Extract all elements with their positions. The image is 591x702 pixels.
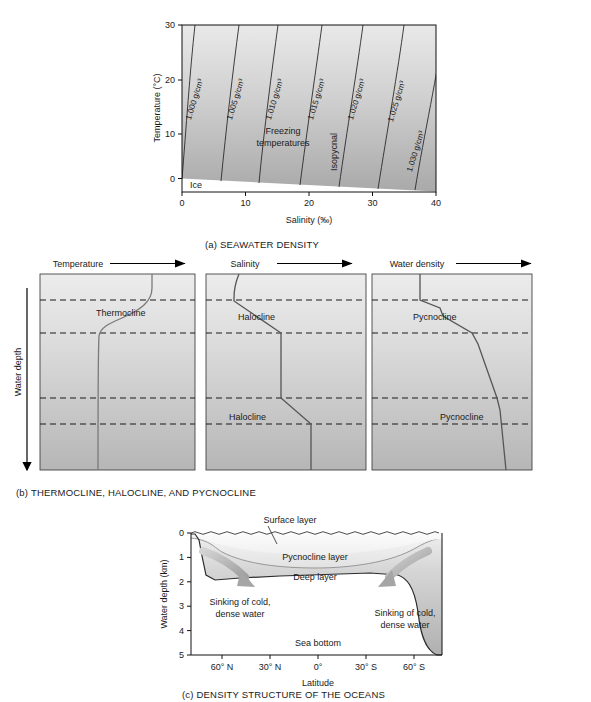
panel-b-label-halocline-upper: Halocline [238,312,275,322]
c-y-tick-0: 0 [179,528,184,538]
ice-label: Ice [190,180,202,190]
panel-b-label-thermocline: Thermocline [96,308,146,318]
panel-c-y-ticks [187,533,191,655]
panel-b-header-temperature: Temperature [53,259,104,269]
x-tick-30: 30 [367,198,377,208]
figure-oceanography: 1.000 g/cm³ 1.005 g/cm³ 1.010 g/cm³ 1.01… [0,0,591,702]
panel-b-plot-density: Water density Pycnocline Pycnocline [372,259,532,470]
y-tick-30: 30 [165,20,175,30]
sinking-right-line2: dense water [380,620,429,630]
freezing-label-line2: temperatures [256,138,310,148]
x-tick-20: 20 [304,198,314,208]
panel-c-x-ticks [222,655,414,659]
panel-c-ocean [191,532,442,655]
c-x-tick-30s: 30° S [355,662,377,672]
y-tick-10: 10 [165,129,175,139]
panel-c-y-ticklabels: 0 1 2 3 4 5 [179,528,184,660]
c-x-tick-60n: 60° N [211,662,234,672]
panel-a-x-ticks [182,192,436,196]
panel-a-y-ticks [178,25,182,179]
panel-a-x-ticklabels: 0 10 20 30 40 [179,198,441,208]
surface-layer-label: Surface layer [263,515,316,525]
panel-b-depth-axis: Water depth [13,288,27,470]
panel-b-depth-label: Water depth [13,348,23,397]
freezing-label-line1: Freezing [265,126,300,136]
y-tick-20: 20 [165,75,175,85]
panel-a-y-ticklabels: 30 20 10 0 [165,20,175,184]
c-x-tick-0: 0° [314,662,323,672]
panel-b-header-density: Water density [390,259,445,269]
c-y-tick-1: 1 [179,552,184,562]
pycnocline-layer-label: Pycnocline layer [282,552,348,562]
c-x-tick-30n: 30° N [259,662,282,672]
panel-c-density-structure: Surface layer Pycnocline layer Deep laye… [159,515,442,700]
c-y-tick-3: 3 [179,601,184,611]
c-y-tick-4: 4 [179,626,184,636]
panel-c-x-axis-label: Latitude [302,678,334,688]
panel-a-x-axis-label: Salinity (‰) [286,215,333,225]
sea-bottom-label: Sea bottom [295,638,341,648]
panel-b-clines: Water depth Temperature Thermocline Sali… [13,259,532,498]
sinking-left-line2: dense water [215,609,264,619]
panel-c-y-axis-label: Water depth (km) [159,559,169,628]
c-y-tick-5: 5 [179,650,184,660]
panel-b-caption: (b) THERMOCLINE, HALOCLINE, AND PYCNOCLI… [16,487,256,498]
c-y-tick-2: 2 [179,577,184,587]
panel-a-seawater-density: 1.000 g/cm³ 1.005 g/cm³ 1.010 g/cm³ 1.01… [152,20,444,250]
isopycnal-label: Isopycnal [329,133,339,171]
panel-a-y-axis-label: Temperature (°C) [152,73,162,142]
panel-b-label-halocline-lower: Halocline [229,412,266,422]
sinking-left-line1: Sinking of cold, [209,597,270,607]
x-tick-10: 10 [240,198,250,208]
panel-c-x-ticklabels: 60° N 30° N 0° 30° S 60° S [211,662,425,672]
panel-b-header-salinity: Salinity [230,259,260,269]
c-x-tick-60s: 60° S [403,662,425,672]
x-tick-0: 0 [179,198,184,208]
panel-c-caption: (c) DENSITY STRUCTURE OF THE OCEANS [182,689,385,700]
x-tick-40: 40 [431,198,441,208]
panel-b-plot-temperature: Temperature Thermocline [40,259,195,470]
panel-a-caption: (a) SEAWATER DENSITY [205,239,319,250]
panel-b-label-pycnocline-upper: Pycnocline [413,312,457,322]
panel-b-label-pycnocline-lower: Pycnocline [440,412,484,422]
y-tick-0: 0 [170,174,175,184]
sinking-right-line1: Sinking of cold, [374,608,435,618]
deep-layer-label: Deep layer [293,572,337,582]
panel-b-plot-salinity: Salinity Halocline Halocline [206,259,366,470]
